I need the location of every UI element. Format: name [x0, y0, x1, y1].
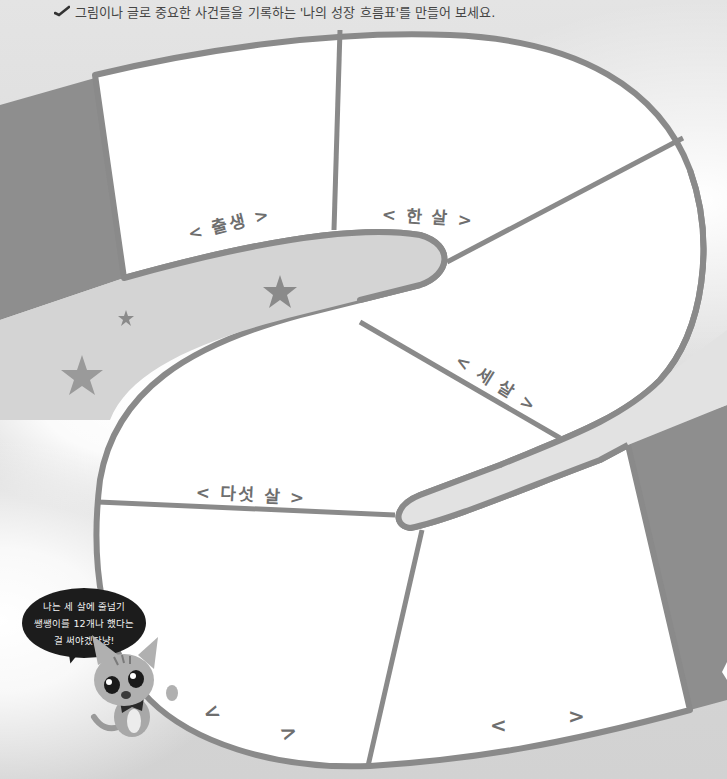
- timeline-path: [95, 34, 703, 766]
- blank-label-2-open: <: [490, 713, 507, 737]
- speech-line: 나는 세 살에 줄넘기: [22, 598, 146, 615]
- blank-label-2-close: >: [568, 704, 585, 728]
- cat-mascot: [84, 625, 184, 745]
